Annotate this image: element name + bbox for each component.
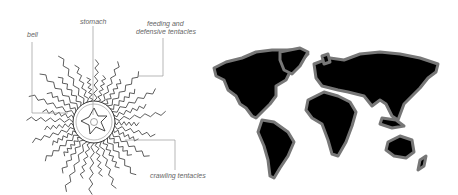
africa (306, 92, 356, 156)
tentacle (58, 77, 81, 107)
tentacle (112, 131, 150, 156)
tentacle (80, 142, 91, 179)
indonesia (380, 118, 404, 128)
uk-islands (322, 54, 330, 64)
crawling-label: crawling tentacles (150, 172, 206, 180)
world-map (214, 48, 438, 178)
tentacle (114, 121, 139, 126)
figure-canvas (0, 0, 458, 195)
tentacle (45, 123, 75, 130)
jellyfish-diagram (27, 26, 176, 195)
new-zealand (418, 156, 426, 170)
tentacle (114, 125, 155, 137)
feeding-label-2: defensive tentacles (136, 28, 196, 36)
crawling-leader (125, 140, 175, 170)
feeding-label-1: feeding and (147, 20, 184, 28)
bell-leader (32, 42, 68, 113)
tentacle (113, 128, 138, 141)
tentacle (87, 78, 93, 103)
tentacle (95, 142, 103, 177)
tentacle (114, 111, 166, 120)
feeding-leader (138, 38, 163, 76)
south-america (258, 120, 294, 178)
tentacle (103, 139, 120, 168)
tentacle (27, 117, 74, 123)
tentacle (89, 142, 95, 194)
stomach-label: stomach (80, 18, 106, 26)
australia (386, 136, 414, 158)
tentacle (100, 141, 117, 189)
tentacle (40, 74, 79, 110)
greenland (280, 48, 308, 74)
bell-label: bell (27, 31, 38, 39)
tentacle (93, 60, 99, 102)
